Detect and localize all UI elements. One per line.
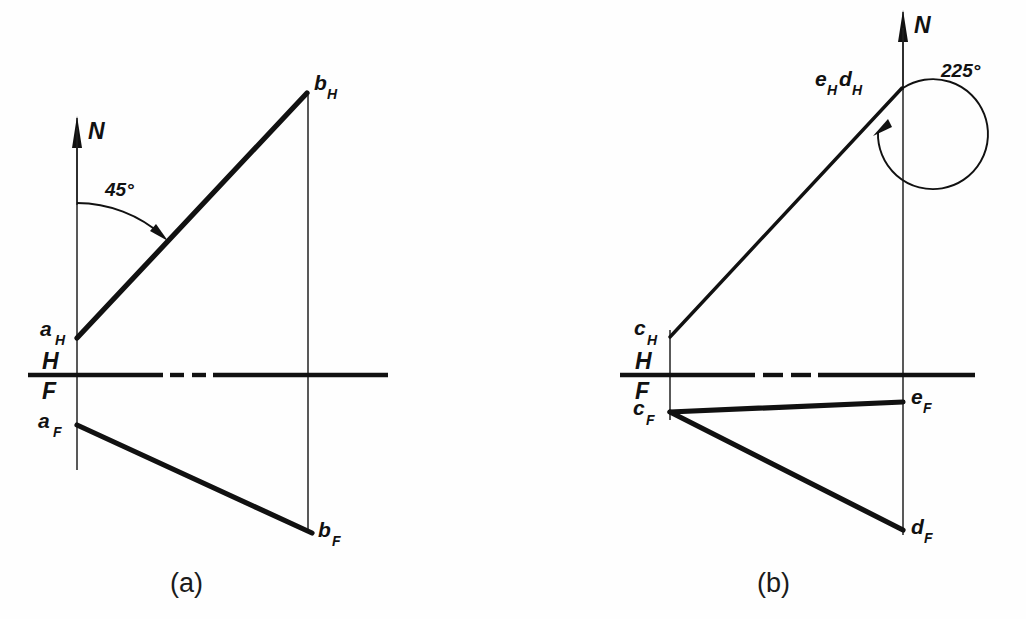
north-label-b: N — [914, 12, 931, 38]
panel-b: N 225° e H d H c H c F e F d — [620, 10, 988, 598]
point-label-ah-sub: H — [55, 332, 66, 348]
angle-arc-b — [873, 79, 988, 189]
line-cf-ef — [670, 402, 903, 412]
technical-drawing-canvas: N 45° a H b H a F b F H F (a) — [0, 0, 1026, 619]
point-label-af: a F — [38, 409, 62, 440]
point-label-df-sub: F — [924, 530, 933, 546]
angle-arc-a — [77, 203, 168, 241]
line-af-bf — [77, 425, 312, 533]
point-label-eh-sub: H — [827, 82, 838, 98]
reference-label-f-a: F — [42, 378, 57, 404]
figure-root: N 45° a H b H a F b F H F (a) — [0, 0, 1026, 619]
point-label-bh: b H — [314, 71, 338, 102]
point-label-af-sub: F — [53, 424, 62, 440]
point-label-bf: b F — [318, 518, 341, 549]
point-label-dh-sub: H — [852, 82, 863, 98]
point-label-df-base: d — [911, 515, 925, 538]
point-label-ch: c H — [634, 316, 658, 348]
angle-arrowhead-icon-b — [873, 119, 892, 136]
point-label-ch-base: c — [634, 316, 646, 339]
reference-label-h-b: H — [635, 348, 652, 374]
line-cf-df — [670, 412, 903, 530]
point-label-ef-base: e — [911, 385, 923, 408]
reference-label-f-b: F — [635, 378, 650, 404]
caption-a: (a) — [170, 568, 203, 598]
point-label-dh-base: d — [839, 67, 853, 90]
point-label-ef-sub: F — [923, 400, 932, 416]
caption-b: (b) — [757, 568, 790, 598]
panel-a: N 45° a H b H a F b F H F (a) — [28, 71, 388, 598]
point-label-bf-base: b — [318, 518, 331, 541]
point-label-df: d F — [911, 515, 933, 546]
point-label-ch-sub: H — [647, 332, 658, 348]
reference-label-h-a: H — [42, 348, 59, 374]
point-label-cf-sub: F — [646, 412, 655, 428]
line-ah-bh — [77, 93, 307, 338]
point-label-bh-sub: H — [327, 86, 338, 102]
point-label-ah: a H — [40, 317, 66, 348]
point-label-ehdh: e H d H — [815, 67, 863, 98]
angle-label-b: 225° — [940, 60, 981, 81]
angle-label-a: 45° — [104, 179, 134, 200]
point-label-ef: e F — [911, 385, 932, 416]
point-label-ah-base: a — [40, 317, 52, 340]
point-label-af-base: a — [38, 409, 50, 432]
north-label-a: N — [88, 118, 105, 144]
line-ch-ehdh — [670, 88, 902, 337]
point-label-bh-base: b — [314, 71, 327, 94]
point-label-bf-sub: F — [332, 533, 341, 549]
point-label-eh-base: e — [815, 67, 827, 90]
